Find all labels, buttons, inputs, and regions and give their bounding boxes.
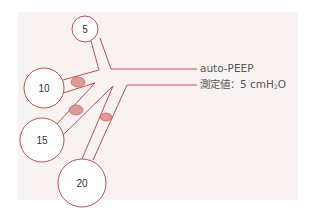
airway-tree-illustration: 5 10 15 20 <box>0 0 312 220</box>
measured-value-prefix: 測定値：5 cmH <box>200 78 274 90</box>
alveolus-15-label: 15 <box>36 135 48 146</box>
measured-value-annotation: 測定値：5 cmH2O <box>200 79 286 90</box>
auto-peep-label: auto-PEEP <box>200 62 254 74</box>
obstruction-plug-branch-15 <box>69 105 83 115</box>
auto-peep-diagram: 5 10 15 20 auto-PEEP 測定値：5 cmH2O <box>0 0 312 220</box>
alveolus-20-label: 20 <box>76 178 88 189</box>
auto-peep-title: auto-PEEP <box>200 63 254 74</box>
obstruction-plug-branch-10 <box>71 77 85 87</box>
airway-20-left-wall <box>82 86 113 159</box>
airway-20-right-wall <box>93 85 127 160</box>
airway-5-left-wall <box>91 41 99 70</box>
airway-5-right-wall <box>100 38 111 69</box>
measured-value-suffix: O <box>278 78 286 90</box>
obstruction-plug-branch-20 <box>100 113 112 121</box>
alveolus-10-label: 10 <box>38 83 50 94</box>
alveolus-5-label: 5 <box>82 24 88 35</box>
